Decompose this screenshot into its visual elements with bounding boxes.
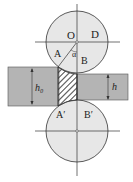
label-A-prime: A′ [56,109,65,120]
label-D: D [91,28,99,40]
diagram-canvas: O D A α B A′ B′ h₀ h [0,0,133,182]
label-h0: h₀ [35,82,44,93]
label-O: O [67,29,75,41]
label-B: B [81,55,88,66]
label-A: A [54,48,62,59]
label-B-prime: B′ [84,109,93,120]
entry-strip [8,67,59,106]
exit-strip [77,74,128,100]
rolling-diagram: O D A α B A′ B′ h₀ h [0,0,133,182]
label-h: h [112,81,117,92]
